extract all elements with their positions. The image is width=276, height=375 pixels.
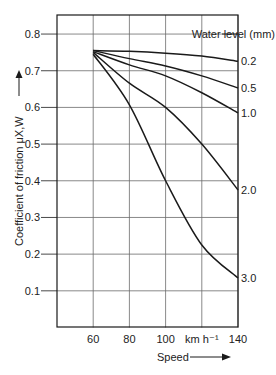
y-tick-label: 0.3 xyxy=(25,211,40,223)
x-tick-label: 140 xyxy=(229,333,247,345)
series-label: 3.0 xyxy=(241,272,256,284)
series-label: 0.5 xyxy=(241,82,256,94)
series-labels: 0.20.51.02.03.0 xyxy=(241,55,256,284)
series-label: 0.2 xyxy=(241,55,256,67)
series-label: 1.0 xyxy=(241,107,256,119)
x-tick-label: 100 xyxy=(156,333,174,345)
y-tick-label: 0.7 xyxy=(25,65,40,77)
x-axis-title: Speed xyxy=(157,351,189,363)
x-tick-labels: 6080100km h⁻¹140 xyxy=(87,333,247,345)
x-tick-label: 60 xyxy=(87,333,99,345)
y-axis-label: Coefficient of friction μX,W xyxy=(13,70,25,246)
y-tick-label: 0.6 xyxy=(25,101,40,113)
grid-lines xyxy=(41,15,238,328)
friction-vs-speed-chart: 0.10.20.30.40.50.60.70.8 6080100km h⁻¹14… xyxy=(0,0,276,375)
y-tick-label: 0.2 xyxy=(25,248,40,260)
x-tick-label: km h⁻¹ xyxy=(185,333,219,345)
arrow-right-icon xyxy=(222,354,231,361)
series-label: 2.0 xyxy=(241,184,256,196)
y-tick-label: 0.4 xyxy=(25,175,40,187)
y-tick-label: 0.5 xyxy=(25,138,40,150)
y-axis-title: Coefficient of friction μX,W xyxy=(13,116,25,246)
y-tick-label: 0.8 xyxy=(25,28,40,40)
x-tick-label: 80 xyxy=(123,333,135,345)
arrow-up-icon xyxy=(16,70,23,78)
y-tick-label: 0.1 xyxy=(25,285,40,297)
y-tick-labels: 0.10.20.30.40.50.60.70.8 xyxy=(25,28,40,297)
